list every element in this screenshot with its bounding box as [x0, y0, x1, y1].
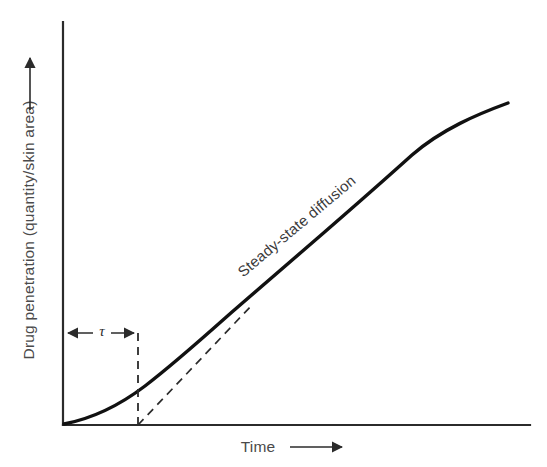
steady-state-tangent-line — [138, 305, 252, 425]
x-axis-label-group: Time — [241, 438, 342, 455]
figure-root: τ Steady-state diffusion Drug penetratio… — [0, 0, 547, 467]
data-series-group — [64, 103, 508, 425]
drug-penetration-curve — [64, 103, 508, 424]
steady-state-label-group: Steady-state diffusion — [234, 172, 359, 280]
x-axis-label: Time — [241, 438, 276, 455]
lag-time-tau-symbol: τ — [99, 323, 105, 339]
chart-canvas: τ Steady-state diffusion Drug penetratio… — [0, 0, 547, 467]
lag-time-annotation-group: τ — [68, 322, 138, 425]
steady-state-diffusion-label: Steady-state diffusion — [234, 172, 359, 280]
y-axis-label-group: Drug penetration (quantity/skin area) — [20, 58, 37, 359]
y-axis-label: Drug penetration (quantity/skin area) — [20, 101, 37, 360]
